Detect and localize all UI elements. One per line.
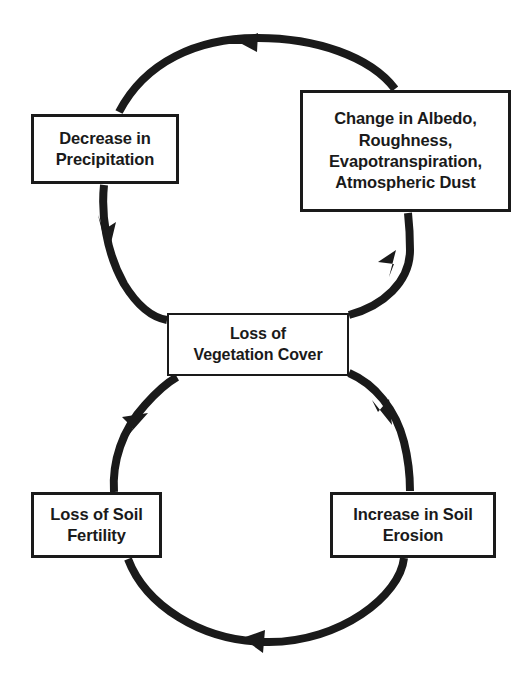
node-loss-soil-fertility-label: Loss of Soil Fertility (50, 504, 142, 547)
node-decrease-precipitation-label: Decrease in Precipitation (56, 128, 155, 171)
node-change-albedo-label: Change in Albedo, Roughness, Evapotransp… (329, 108, 482, 194)
node-loss-soil-fertility[interactable]: Loss of Soil Fertility (31, 492, 162, 558)
node-decrease-precipitation[interactable]: Decrease in Precipitation (31, 114, 179, 184)
cycle-diagram: Decrease in Precipitation Change in Albe… (0, 0, 531, 694)
arrowhead-up-right-arc (378, 250, 396, 277)
arrowhead-left-bottom-arc (231, 630, 265, 653)
node-loss-vegetation-cover[interactable]: Loss of Vegetation Cover (167, 313, 349, 376)
arrow-erosion-to-fertility (128, 558, 404, 642)
arrow-precipitation-to-vegetation (103, 185, 167, 320)
arrow-vegetation-to-erosion (349, 373, 410, 491)
node-increase-soil-erosion-label: Increase in Soil Erosion (353, 504, 472, 547)
node-loss-vegetation-cover-label: Loss of Vegetation Cover (193, 324, 322, 366)
arrow-vegetation-to-albedo (349, 213, 410, 315)
node-increase-soil-erosion[interactable]: Increase in Soil Erosion (330, 492, 496, 558)
node-change-albedo[interactable]: Change in Albedo, Roughness, Evapotransp… (300, 90, 511, 212)
arrow-fertility-to-vegetation (114, 377, 177, 492)
